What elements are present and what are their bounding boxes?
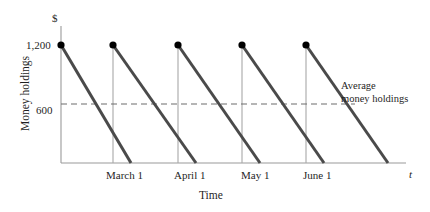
sawtooth-chart-canvas <box>0 0 430 212</box>
x-axis-variable-symbol: t <box>409 169 412 180</box>
x-tick-label-march: March 1 <box>106 170 143 181</box>
peak-marker-4 <box>238 41 245 48</box>
x-tick-label-may: May 1 <box>241 170 269 181</box>
peak-markers-group <box>57 41 309 48</box>
x-tick-label-june: June 1 <box>303 170 331 181</box>
peak-marker-5 <box>302 41 309 48</box>
y-tick-label-1200: 1,200 <box>26 40 51 51</box>
peak-marker-1 <box>57 41 64 48</box>
peak-marker-3 <box>174 41 181 48</box>
y-tick-label-600: 600 <box>36 105 53 116</box>
x-axis-title: Time <box>199 190 223 202</box>
decline-segment-3 <box>178 45 260 163</box>
currency-symbol-label: $ <box>52 13 58 24</box>
average-money-holdings-annotation: Average money holdings <box>341 80 408 106</box>
annotation-line-2: money holdings <box>341 93 408 106</box>
y-axis-title: Money holdings <box>20 56 32 131</box>
x-tick-label-april: April 1 <box>174 170 205 181</box>
chart-figure: $ 1,200 600 Money holdings March 1 April… <box>0 0 430 212</box>
annotation-line-1: Average <box>341 80 408 93</box>
peak-marker-2 <box>109 41 116 48</box>
